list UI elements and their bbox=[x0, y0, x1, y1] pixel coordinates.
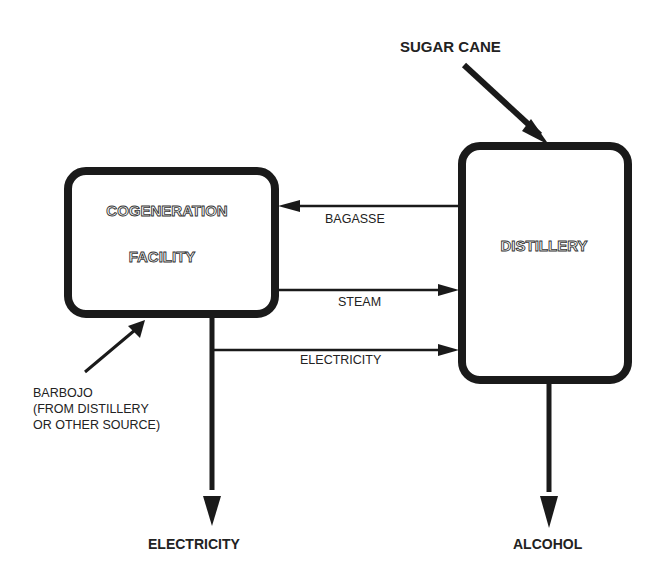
distillery-box bbox=[462, 146, 628, 380]
electricity-internal-arrowhead bbox=[438, 344, 459, 356]
barbojo-label-line1: BARBOJO bbox=[33, 386, 93, 400]
barbojo-label-line3: OR OTHER SOURCE) bbox=[33, 418, 160, 432]
steam-label: STEAM bbox=[338, 295, 381, 309]
bagasse-label: BAGASSE bbox=[325, 212, 385, 226]
sugar-cane-label: SUGAR CANE bbox=[400, 38, 501, 55]
cogeneration-diagram: COGENERATION FACILITY DISTILLERY SUGAR C… bbox=[0, 0, 661, 572]
barbojo-label-line2: (FROM DISTILLERY bbox=[33, 402, 149, 416]
alcohol-output-arrowhead bbox=[540, 496, 558, 528]
cogeneration-label-line1: COGENERATION bbox=[106, 202, 227, 219]
cogeneration-label-line2: FACILITY bbox=[129, 248, 196, 265]
electricity-internal-label: ELECTRICITY bbox=[300, 353, 382, 367]
electricity-output-arrowhead bbox=[203, 496, 221, 526]
barbojo-arrow bbox=[85, 330, 135, 372]
electricity-output-label: ELECTRICITY bbox=[148, 536, 240, 552]
distillery-label: DISTILLERY bbox=[501, 237, 588, 254]
bagasse-arrowhead bbox=[278, 200, 300, 212]
cogeneration-facility-box bbox=[68, 171, 275, 314]
steam-arrowhead bbox=[438, 284, 459, 296]
alcohol-output-label: ALCOHOL bbox=[513, 536, 583, 552]
